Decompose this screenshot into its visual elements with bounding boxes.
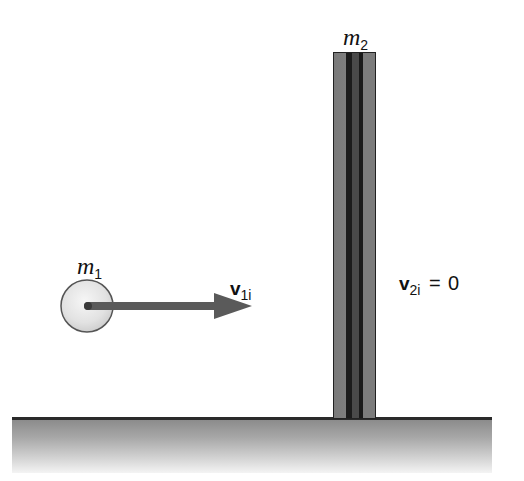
velocity-symbol: v <box>399 273 410 294</box>
ball-and-arrow <box>0 0 524 481</box>
velocity-subscript: 1i <box>241 287 252 303</box>
velocity-value: 0 <box>448 272 459 294</box>
post-velocity-label: v2i = 0 <box>399 273 459 293</box>
mass-subscript: 1 <box>94 266 102 282</box>
ball-mass-label: m1 <box>77 254 102 278</box>
equals-sign: = <box>429 272 441 294</box>
velocity-subscript: 2i <box>410 282 421 298</box>
mass-symbol: m <box>77 253 94 279</box>
post-mass-label: m2 <box>343 25 368 49</box>
collision-diagram: m1 v1i m2 v2i = 0 <box>0 0 524 481</box>
ball-velocity-label: v1i <box>230 279 251 298</box>
velocity-symbol: v <box>230 278 241 299</box>
mass-subscript: 2 <box>360 37 368 53</box>
mass-symbol: m <box>343 24 360 50</box>
